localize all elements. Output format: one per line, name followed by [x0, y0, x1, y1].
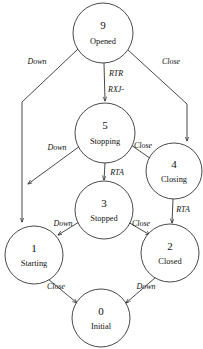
- state-number-stopped: 3: [101, 197, 107, 209]
- state-label-opened: Opened: [90, 37, 117, 46]
- state-circle-closed[interactable]: [141, 224, 199, 282]
- edge-label-opened-to-stopping-rxj: RXJ-: [107, 85, 124, 94]
- state-node-initial[interactable]: 0 Initial: [72, 289, 130, 347]
- state-label-closing: Closing: [161, 175, 188, 184]
- edge-label-opened-to-starting: Down: [26, 57, 46, 66]
- state-node-stopping[interactable]: 5 Stopping: [75, 103, 135, 163]
- edge-closing-to-closed: [172, 199, 173, 223]
- state-circle-initial[interactable]: [72, 289, 130, 347]
- state-label-closed: Closed: [158, 257, 182, 266]
- state-node-closing[interactable]: 4 Closing: [146, 143, 202, 199]
- state-circle-opened[interactable]: [73, 3, 133, 63]
- edge-label-opened-to-closing: Close: [162, 57, 181, 66]
- state-circle-starting[interactable]: [5, 226, 63, 284]
- state-number-closing: 4: [171, 158, 177, 170]
- state-number-stopping: 5: [102, 119, 108, 131]
- state-number-opened: 9: [100, 19, 106, 31]
- state-circle-closing[interactable]: [146, 143, 202, 199]
- edge-opened-to-stopping: [104, 63, 105, 101]
- edge-opened-to-starting: [22, 49, 78, 222]
- state-circle-stopped[interactable]: [75, 181, 133, 239]
- state-circle-stopping[interactable]: [75, 103, 135, 163]
- edge-label-closed-to-initial: Down: [135, 282, 155, 291]
- state-label-initial: Initial: [91, 322, 112, 331]
- state-label-stopping: Stopping: [90, 137, 121, 146]
- state-diagram: 9 Opened 5 Stopping 4 Closing 3 Stopped: [0, 0, 203, 349]
- state-number-closed: 2: [167, 240, 173, 252]
- edge-label-closing-to-closed: RTA: [175, 205, 190, 214]
- edge-label-stopping-to-stopped: RTA: [109, 168, 124, 177]
- edge-label-stopped-to-starting: Down: [52, 219, 72, 228]
- state-node-stopped[interactable]: 3 Stopped: [75, 181, 133, 239]
- state-number-initial: 0: [98, 305, 104, 317]
- state-node-opened[interactable]: 9 Opened: [73, 3, 133, 63]
- state-label-stopped: Stopped: [90, 214, 118, 223]
- state-number-starting: 1: [31, 242, 37, 254]
- edge-stopping-to-stopped: [104, 163, 105, 180]
- state-label-starting: Starting: [21, 259, 48, 268]
- edge-label-stopped-to-closed: Close: [132, 219, 151, 228]
- node-group: 9 Opened 5 Stopping 4 Closing 3 Stopped: [5, 3, 202, 347]
- state-node-starting[interactable]: 1 Starting: [5, 226, 63, 284]
- edge-label-stopping-to-starting: Down: [46, 143, 66, 152]
- edge-label-stopping-to-closing: Close: [134, 141, 153, 150]
- state-node-closed[interactable]: 2 Closed: [141, 224, 199, 282]
- state-diagram-canvas: 9 Opened 5 Stopping 4 Closing 3 Stopped: [0, 0, 203, 349]
- edge-label-opened-to-stopping-rtr: RTR: [108, 69, 123, 78]
- edge-label-starting-to-initial: Close: [47, 282, 66, 291]
